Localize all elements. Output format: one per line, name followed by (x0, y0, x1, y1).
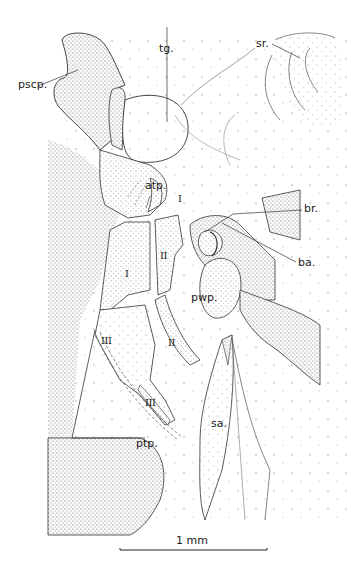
label-br: br. (304, 203, 318, 214)
ptp-region (48, 438, 164, 535)
scale-bar (120, 548, 267, 550)
label-ba: ba. (298, 257, 315, 268)
label-tg: tg. (159, 43, 174, 54)
label-roman-iii-left: III (101, 336, 111, 346)
label-roman-iii-lower: III (145, 398, 155, 408)
label-pscp: pscp. (18, 79, 47, 90)
label-pwp: pwp. (191, 292, 217, 303)
label-atp: atp. (145, 180, 167, 191)
label-roman-ii-upper: II (160, 251, 167, 261)
label-sa: sa. (211, 418, 227, 429)
tg-lobe (123, 95, 189, 162)
label-roman-i-lower: I (125, 269, 128, 279)
anatomical-figure (0, 0, 351, 582)
label-roman-ii-lower: II (168, 338, 175, 348)
label-sr: sr. (256, 38, 269, 49)
label-roman-i-upper: I (178, 194, 181, 204)
scale-bar-label: 1 mm (176, 534, 208, 547)
label-ptp: ptp. (136, 438, 158, 449)
